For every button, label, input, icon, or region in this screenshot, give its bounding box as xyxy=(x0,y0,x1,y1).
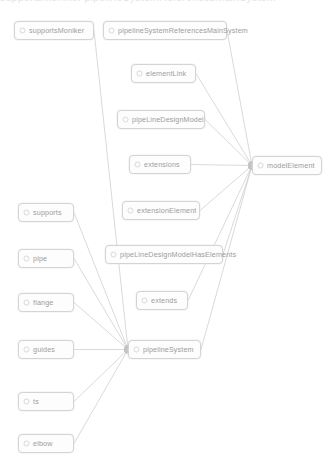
node-label: pipeLineDesignModelHasElements xyxy=(120,250,236,259)
node-label: supports xyxy=(33,208,62,217)
node-pipeLineDesignModel[interactable]: pipeLineDesignModel xyxy=(117,110,205,129)
node-label: elbow xyxy=(33,439,53,448)
node-label: extensions xyxy=(144,160,180,169)
node-label: extends xyxy=(151,296,177,305)
class-node-icon xyxy=(136,70,143,77)
node-extensions[interactable]: extensions xyxy=(129,155,191,174)
edge-supportsMoniker-to-pipelineSystem xyxy=(94,31,128,350)
edge-extends-to-modelElement xyxy=(188,166,252,301)
node-flange[interactable]: flange xyxy=(18,293,74,312)
node-label: pipelineSystem xyxy=(143,345,194,354)
node-label: guides xyxy=(33,345,55,354)
cropped-header-label: supportsMoniker pipelineSystemReferences… xyxy=(0,0,276,3)
class-node-icon xyxy=(127,207,134,214)
node-pipelineSystem[interactable]: pipelineSystem xyxy=(128,340,201,359)
node-elementLink[interactable]: elementLink xyxy=(131,64,196,83)
node-supports[interactable]: supports xyxy=(18,203,74,222)
node-modelElement[interactable]: modelElement xyxy=(252,156,322,175)
class-node-icon xyxy=(23,299,30,306)
class-node-icon xyxy=(257,162,264,169)
node-pipe[interactable]: pipe xyxy=(18,249,74,268)
node-label: elementLink xyxy=(146,69,186,78)
class-node-icon xyxy=(108,27,115,34)
node-label: pipelineSystemReferencesMainSystem xyxy=(118,26,248,35)
node-supportsMoniker[interactable]: supportsMoniker xyxy=(14,21,94,40)
node-ts[interactable]: ts xyxy=(18,392,74,411)
node-elbow[interactable]: elbow xyxy=(18,434,74,453)
node-label: pipeLineDesignModel xyxy=(132,115,204,124)
edge-pipelineSystemReferencesMainSystem-to-modelElement xyxy=(227,31,252,166)
edge-supports-to-pipelineSystem xyxy=(74,213,128,350)
class-node-icon xyxy=(134,161,141,168)
class-node-icon xyxy=(133,346,140,353)
edge-elbow-to-pipelineSystem xyxy=(74,350,128,444)
edge-ts-to-pipelineSystem xyxy=(74,350,128,402)
class-node-icon xyxy=(23,440,30,447)
node-label: modelElement xyxy=(267,161,315,170)
node-label: flange xyxy=(33,298,53,307)
edge-pipeLineDesignModelHasElements-to-modelElement xyxy=(223,166,252,255)
node-guides[interactable]: guides xyxy=(18,340,74,359)
edge-extensionElement-to-modelElement xyxy=(200,166,252,211)
node-label: pipe xyxy=(33,254,47,263)
diagram-canvas[interactable]: supportsMoniker pipelineSystemReferences… xyxy=(0,0,330,467)
class-node-icon xyxy=(122,116,129,123)
node-pipeLineDesignModelHasElements[interactable]: pipeLineDesignModelHasElements xyxy=(105,245,223,264)
class-node-icon xyxy=(23,346,30,353)
edge-flange-to-pipelineSystem xyxy=(74,303,128,350)
class-node-icon xyxy=(23,255,30,262)
class-node-icon xyxy=(110,251,117,258)
node-label: supportsMoniker xyxy=(29,26,84,35)
node-extensionElement[interactable]: extensionElement xyxy=(122,201,200,220)
class-node-icon xyxy=(23,398,30,405)
node-label: extensionElement xyxy=(137,206,196,215)
edge-pipe-to-pipelineSystem xyxy=(74,259,128,350)
node-label: ts xyxy=(33,397,39,406)
edge-extensions-to-modelElement xyxy=(191,165,252,166)
class-node-icon xyxy=(23,209,30,216)
class-node-icon xyxy=(19,27,26,34)
class-node-icon xyxy=(141,297,148,304)
edge-pipeLineDesignModel-to-modelElement xyxy=(205,120,252,166)
cropped-header-text: supportsMoniker pipelineSystemReferences… xyxy=(0,0,330,9)
node-extends[interactable]: extends xyxy=(136,291,188,310)
node-pipelineSystemReferencesMainSystem[interactable]: pipelineSystemReferencesMainSystem xyxy=(103,21,227,40)
